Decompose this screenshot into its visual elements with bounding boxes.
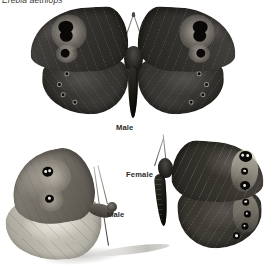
marginal-ocellus — [204, 82, 209, 87]
ocellus — [241, 222, 248, 229]
ocellus — [233, 232, 240, 239]
marginal-ocellus — [60, 92, 65, 97]
forewing-right — [170, 139, 266, 205]
ocellus-pupil — [246, 213, 249, 216]
ocellus-pupil — [243, 224, 246, 227]
label-female: Female — [126, 170, 153, 179]
abdomen — [128, 66, 138, 118]
ocellus-pupil — [44, 170, 47, 173]
marginal-ocellus — [72, 100, 77, 105]
marginal-ocellus — [57, 82, 62, 87]
marginal-ocellus — [189, 100, 194, 105]
marginal-ocellus — [65, 72, 70, 77]
ocellus-third — [196, 48, 205, 57]
ocellus-pupil — [48, 196, 51, 199]
ocellus-pupil — [244, 200, 247, 203]
ocellus-pupil — [243, 170, 246, 173]
forewing-left — [28, 5, 129, 74]
label-male-ventral: Male — [107, 210, 124, 219]
ocellus-pupil — [241, 154, 244, 157]
specimen-female-dorsal — [152, 142, 272, 268]
ocellus-pupil — [235, 234, 238, 237]
forewing-right — [136, 5, 237, 74]
antenna-club-icon — [132, 12, 136, 18]
marginal-ocellus — [196, 72, 201, 77]
label-male-dorsal: Male — [116, 123, 133, 132]
ocellus-pupil — [48, 169, 51, 172]
marginal-ocellus — [200, 92, 205, 97]
ocellus-pupil — [243, 184, 246, 187]
ocellus-pupil — [246, 154, 249, 157]
species-name: Erebia aethiops — [2, 0, 63, 5]
abdomen — [154, 174, 169, 227]
butterfly-plate: Erebia aethiops — [0, 0, 274, 276]
ocellus-lower — [193, 29, 207, 42]
specimen-male-dorsal — [24, 6, 242, 124]
